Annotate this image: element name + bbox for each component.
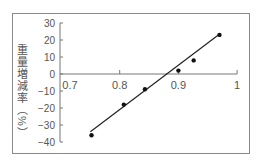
x-tick-label: 0.7 xyxy=(62,79,77,91)
data-point xyxy=(143,87,147,91)
y-tick-label: 0 xyxy=(49,69,55,80)
data-point xyxy=(122,102,126,106)
scatter-chart: 3020100−10−20−30−400.70.80.91 xyxy=(0,0,258,165)
x-tick-label: 0.8 xyxy=(112,79,127,91)
x-tick-label: 1 xyxy=(234,79,240,91)
y-tick-label: 20 xyxy=(44,35,56,46)
y-tick-label: −30 xyxy=(38,120,55,131)
data-point xyxy=(176,68,180,72)
y-tick-label: −40 xyxy=(38,137,55,148)
x-tick-label: 0.9 xyxy=(171,79,186,91)
data-point xyxy=(89,133,93,137)
y-tick-label: 30 xyxy=(44,18,56,29)
y-tick-label: 10 xyxy=(44,52,56,63)
regression-line xyxy=(90,35,218,132)
data-point xyxy=(191,58,195,62)
y-tick-label: −20 xyxy=(38,103,55,114)
data-point xyxy=(217,33,221,37)
y-tick-label: −10 xyxy=(38,86,55,97)
